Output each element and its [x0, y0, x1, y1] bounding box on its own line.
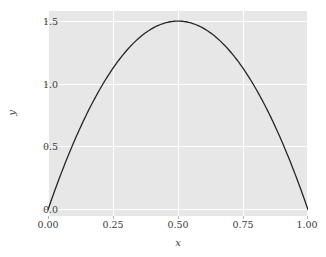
x-tick-label: 0.00 [37, 219, 58, 230]
data-curve [48, 11, 308, 216]
x-tick-label: 1.00 [296, 219, 317, 230]
plot-panel [48, 11, 308, 216]
y-tick-label: 1.5 [43, 16, 58, 27]
y-tick-label: 0.5 [43, 141, 58, 152]
x-tick-label: 0.25 [102, 219, 123, 230]
y-axis-label: y [6, 110, 17, 116]
x-axis-label: x [175, 237, 181, 248]
chart-figure: 0.00 0.25 0.50 0.75 1.00 0.0 0.5 1.0 1.5… [0, 0, 326, 257]
x-tick-label: 0.50 [167, 219, 188, 230]
y-tick-label: 1.0 [43, 79, 58, 90]
y-tick-label: 0.0 [43, 204, 58, 215]
x-tick-label: 0.75 [232, 219, 253, 230]
